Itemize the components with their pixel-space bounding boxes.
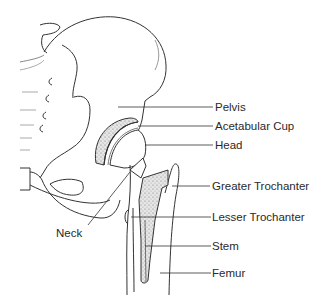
- label-neck: Neck: [56, 227, 82, 240]
- hip-replacement-diagram: [0, 0, 327, 300]
- label-lesser-trochanter: Lesser Trochanter: [212, 211, 305, 224]
- label-acetabular-cup: Acetabular Cup: [215, 120, 294, 133]
- label-head: Head: [215, 139, 243, 152]
- label-greater-trochanter: Greater Trochanter: [212, 180, 309, 193]
- label-stem: Stem: [212, 240, 239, 253]
- label-pelvis: Pelvis: [215, 101, 246, 114]
- femoral-stem: [130, 158, 168, 283]
- label-femur: Femur: [212, 267, 245, 280]
